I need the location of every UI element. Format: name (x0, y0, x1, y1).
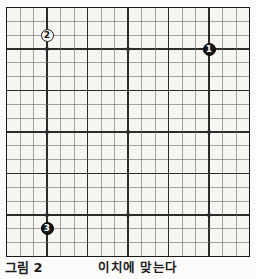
figure-number-label: 그림 2 (5, 261, 43, 274)
go-stone-black-3[interactable]: 3 (41, 222, 54, 235)
go-stone-white-2[interactable]: 2 (41, 29, 54, 42)
figure-caption: 그림 2 이치에 맞는다 (0, 259, 256, 279)
figure-title-text: 이치에 맞는다 (98, 262, 178, 275)
go-stone-move-number: 2 (44, 31, 50, 40)
go-board[interactable]: 123 (6, 7, 250, 257)
go-diagram-figure: 123 그림 2 이치에 맞는다 (0, 0, 256, 279)
go-stone-black-1[interactable]: 1 (203, 43, 216, 56)
go-stone-move-number: 3 (44, 224, 50, 233)
go-stone-move-number: 1 (206, 45, 212, 54)
